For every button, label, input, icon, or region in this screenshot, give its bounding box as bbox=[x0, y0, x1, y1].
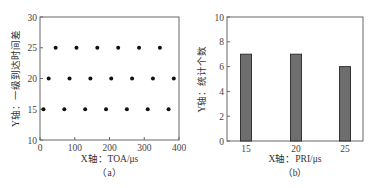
bar bbox=[241, 54, 252, 141]
scatter-point bbox=[137, 46, 141, 50]
bar bbox=[291, 54, 302, 141]
bar bbox=[340, 67, 351, 141]
y-tick-label: 10 bbox=[215, 13, 225, 23]
x-axis-label: X轴：PRI/μs bbox=[268, 153, 321, 164]
scatter-point bbox=[88, 77, 92, 81]
y-tick-label: 0 bbox=[219, 137, 224, 147]
scatter-plot-a: 01002003004001015202530X轴：TOA/μs（a）Y轴：一级… bbox=[10, 13, 186, 179]
y-tick-label: 10 bbox=[28, 136, 38, 146]
scatter-point bbox=[167, 107, 171, 111]
y-tick-label: 2 bbox=[219, 112, 224, 122]
y-axis-label: Y轴：一级到达时间差 bbox=[10, 30, 21, 127]
y-tick-label: 8 bbox=[219, 37, 224, 47]
y-axis-label: Y轴：统计个数 bbox=[196, 46, 207, 113]
y-tick-label: 15 bbox=[28, 105, 38, 115]
figure: 01002003004001015202530X轴：TOA/μs（a）Y轴：一级… bbox=[0, 0, 377, 188]
x-tick-label: 15 bbox=[241, 144, 251, 154]
y-tick-label: 20 bbox=[28, 74, 38, 84]
scatter-point bbox=[172, 77, 176, 81]
scatter-point bbox=[104, 107, 108, 111]
scatter-point bbox=[146, 107, 150, 111]
y-tick-label: 4 bbox=[219, 87, 224, 97]
scatter-point bbox=[151, 77, 155, 81]
x-tick-label: 100 bbox=[68, 143, 83, 153]
x-tick-label: 25 bbox=[340, 144, 350, 154]
scatter-point bbox=[130, 77, 134, 81]
y-tick-label: 6 bbox=[219, 62, 224, 72]
panel-caption: （a） bbox=[97, 167, 121, 178]
scatter-point bbox=[125, 107, 129, 111]
scatter-point bbox=[54, 46, 58, 50]
x-tick-label: 20 bbox=[291, 144, 301, 154]
x-tick-label: 400 bbox=[172, 143, 187, 153]
scatter-point bbox=[116, 46, 120, 50]
scatter-point bbox=[83, 107, 87, 111]
panel-caption: （b） bbox=[283, 167, 308, 178]
scatter-point bbox=[68, 77, 72, 81]
y-tick-label: 30 bbox=[28, 13, 38, 23]
bar-chart-b: 0246810152025X轴：PRI/μs（b）Y轴：统计个数 bbox=[196, 13, 363, 179]
scatter-point bbox=[47, 77, 51, 81]
scatter-point bbox=[62, 107, 66, 111]
scatter-point bbox=[158, 46, 162, 50]
scatter-point bbox=[109, 77, 113, 81]
x-tick-label: 200 bbox=[102, 143, 117, 153]
y-tick-label: 25 bbox=[28, 43, 38, 53]
x-tick-label: 300 bbox=[137, 143, 152, 153]
scatter-point bbox=[74, 46, 78, 50]
x-tick-label: 0 bbox=[38, 143, 43, 153]
x-axis-label: X轴：TOA/μs bbox=[81, 153, 139, 164]
scatter-point bbox=[95, 46, 99, 50]
scatter-point bbox=[41, 107, 45, 111]
